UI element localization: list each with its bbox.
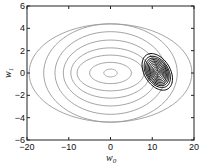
y-tick-label: −4 [15, 113, 25, 123]
y-tick-label: −6 [15, 135, 25, 145]
y-axis-label: w1 [2, 68, 15, 78]
contour-line [104, 69, 117, 77]
y-tick-label: 2 [20, 46, 25, 56]
y-tick-label: −2 [15, 90, 25, 100]
x-tick-label: 0 [108, 142, 113, 152]
contour-line [90, 62, 132, 83]
x-tick-label: −10 [61, 142, 76, 152]
x-tick-label: 10 [147, 142, 157, 152]
contour-layer [29, 24, 192, 122]
x-tick-label: 20 [189, 142, 199, 152]
contour-line [77, 55, 144, 91]
y-tick-label: 4 [20, 23, 25, 33]
y-tick-label: 6 [20, 1, 25, 11]
y-tick-label: 0 [20, 68, 25, 78]
contour-chart: −20−1001020 −6−4−20246 w0 w1 [0, 0, 203, 166]
x-axis-label: w0 [106, 152, 117, 165]
